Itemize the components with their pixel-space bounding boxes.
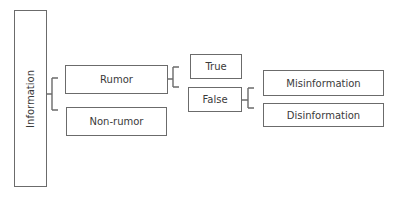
node-false-label: False (202, 94, 227, 105)
node-disinformation-label: Disinformation (287, 110, 360, 121)
node-disinformation: Disinformation (263, 103, 384, 127)
node-misinformation: Misinformation (263, 70, 384, 96)
node-non-rumor-label: Non-rumor (90, 116, 144, 127)
bracket-information (47, 78, 58, 110)
node-true-label: True (205, 61, 226, 72)
bracket-false (242, 88, 254, 108)
node-information: Information (14, 10, 47, 187)
node-true: True (190, 54, 242, 79)
node-false: False (188, 87, 242, 112)
node-rumor: Rumor (65, 65, 168, 94)
node-misinformation-label: Misinformation (286, 78, 360, 89)
node-rumor-label: Rumor (100, 74, 133, 85)
node-non-rumor: Non-rumor (66, 107, 167, 136)
bracket-rumor (168, 67, 179, 87)
node-information-label: Information (25, 70, 36, 128)
